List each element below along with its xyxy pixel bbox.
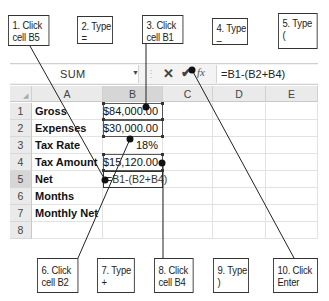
callout-leader-lines: [0, 0, 329, 301]
